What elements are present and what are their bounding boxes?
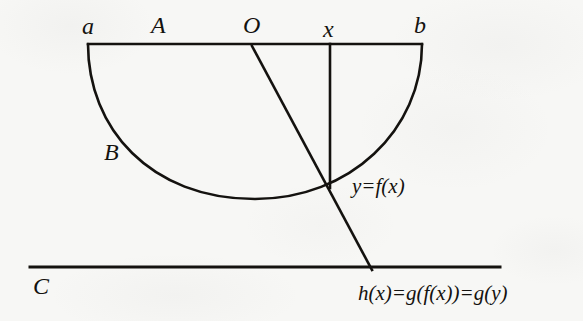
slanted-ray-from-O [252, 46, 372, 270]
label-point-x: x [323, 17, 334, 41]
label-composition-equation: h(x)=g(f(x))=g(y) [358, 283, 508, 304]
label-curve-equation: y=f(x) [352, 176, 405, 197]
figure-page: a A O x b B C y=f(x) h(x)=g(f(x))=g(y) [0, 0, 583, 321]
label-curve-B: B [104, 140, 119, 164]
label-segment-A: A [151, 13, 166, 37]
label-point-b: b [414, 13, 426, 37]
label-point-a: a [82, 14, 94, 38]
label-origin-O: O [243, 13, 260, 37]
diagram-canvas [0, 0, 583, 321]
label-line-C: C [33, 274, 49, 298]
